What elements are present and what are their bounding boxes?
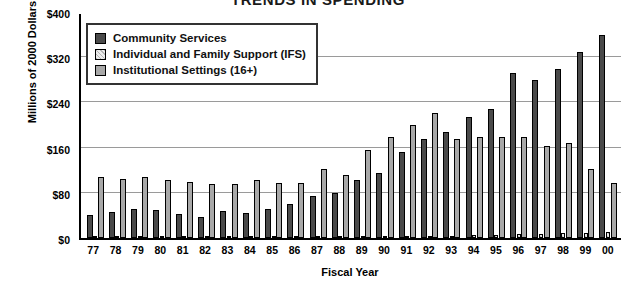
bar-group [396,14,418,238]
bar-group [575,14,597,238]
bar-inst [365,150,371,238]
bar-cs [466,117,472,238]
bar-ifs [227,236,231,238]
legend-item[interactable]: Community Services [95,30,306,46]
bar-inst [432,113,438,238]
bar-inst [276,183,282,238]
bar-ifs [428,236,432,238]
bar-cs [87,215,93,238]
bar-ifs [472,235,476,238]
x-tick-label: 00 [597,244,619,256]
bar-ifs [316,236,320,238]
y-tick-label: $80 [10,189,70,201]
bar-ifs [272,236,276,238]
bar-cs [599,35,605,238]
legend-swatch-icon [95,65,106,76]
x-tick-label: 94 [462,244,484,256]
bar-inst [254,180,260,238]
bar-inst [410,125,416,238]
bar-inst [566,143,572,238]
bar-cs [131,209,137,238]
legend-item[interactable]: Institutional Settings (16+) [95,62,306,78]
bar-cs [421,139,427,238]
bar-ifs [539,234,543,238]
x-tick-label: 93 [440,244,462,256]
x-tick-label: 85 [261,244,283,256]
bar-group [485,14,507,238]
bar-inst [321,169,327,238]
bar-group [374,14,396,238]
bar-inst [454,139,460,238]
bar-inst [499,137,505,238]
legend-item[interactable]: Individual and Family Support (IFS) [95,46,306,62]
bar-cs [310,196,316,238]
legend-label: Institutional Settings (16+) [113,64,257,76]
bar-cs [176,214,182,238]
x-tick-label: 97 [530,244,552,256]
x-axis-tick-labels: 7778798081828384858687888990919293949596… [79,244,621,256]
bar-cs [220,211,226,238]
bar-inst [611,183,617,238]
y-tick-label: $0 [10,234,70,246]
bar-ifs [561,233,565,238]
bar-cs [532,80,538,238]
bar-inst [298,183,304,238]
x-tick-label: 98 [552,244,574,256]
spending-trends-chart: TRENDS IN SPENDING Millions of 2000 Doll… [0,0,636,292]
bar-group [352,14,374,238]
bar-cs [198,217,204,238]
x-axis-title: Fiscal Year [79,266,621,278]
bar-inst [98,177,104,238]
bar-cs [555,69,561,239]
bar-inst [209,184,215,238]
bar-inst [142,177,148,238]
bar-ifs [115,236,119,238]
bar-ifs [182,236,186,238]
bar-cs [488,109,494,238]
x-tick-label: 77 [82,244,104,256]
x-tick-label: 88 [328,244,350,256]
x-tick-label: 80 [149,244,171,256]
bar-ifs [517,234,521,238]
x-tick-label: 96 [507,244,529,256]
x-tick-label: 90 [373,244,395,256]
x-tick-label: 81 [172,244,194,256]
chart-legend: Community ServicesIndividual and Family … [86,23,318,85]
bar-inst [343,175,349,238]
x-tick-label: 99 [574,244,596,256]
bar-ifs [383,236,387,238]
x-tick-label: 87 [306,244,328,256]
bar-cs [399,152,405,238]
bar-inst [388,137,394,238]
bar-ifs [405,236,409,238]
y-tick-label: $160 [10,144,70,156]
bar-cs [265,209,271,238]
bar-ifs [249,236,253,238]
y-tick-label: $240 [10,98,70,110]
bar-group [530,14,552,238]
bar-inst [120,179,126,238]
x-tick-label: 79 [127,244,149,256]
bar-cs [376,173,382,238]
legend-label: Community Services [113,32,227,44]
bar-ifs [450,236,454,238]
legend-swatch-icon [95,49,106,60]
x-tick-label: 92 [418,244,440,256]
bar-ifs [160,236,164,238]
bar-cs [287,204,293,238]
bar-inst [588,169,594,238]
x-tick-label: 89 [351,244,373,256]
bar-group [329,14,351,238]
bar-cs [443,132,449,238]
bar-ifs [361,236,365,238]
x-tick-label: 91 [395,244,417,256]
bar-inst [232,184,238,238]
bar-ifs [93,236,97,238]
chart-title: TRENDS IN SPENDING [0,0,636,8]
bar-ifs [494,235,498,238]
bar-group [508,14,530,238]
bar-ifs [138,236,142,238]
bar-inst [165,180,171,238]
bar-group [552,14,574,238]
x-tick-label: 95 [485,244,507,256]
